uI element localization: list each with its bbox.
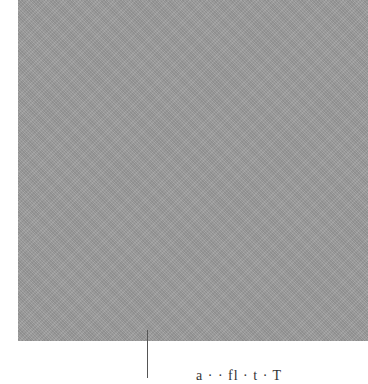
gray-halftone-swatch (18, 0, 368, 341)
leader-line (147, 330, 148, 378)
figure-caption-partial: a · · fl · t · T (196, 368, 282, 384)
